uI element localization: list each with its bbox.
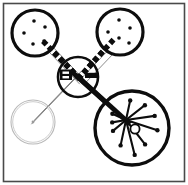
node-center-bar-right — [85, 73, 97, 78]
figure-frame — [0, 0, 188, 185]
diagram-canvas — [0, 0, 188, 185]
node-lower-right-small-circle — [130, 124, 139, 133]
node-lower-left-center-dot — [32, 121, 35, 124]
node-lower-left[interactable] — [11, 100, 55, 144]
node-center-bar-left-slot-top — [63, 72, 70, 74]
node-center-bar-left-slot-bottom — [63, 76, 70, 78]
node-center-bar-left — [60, 70, 72, 81]
